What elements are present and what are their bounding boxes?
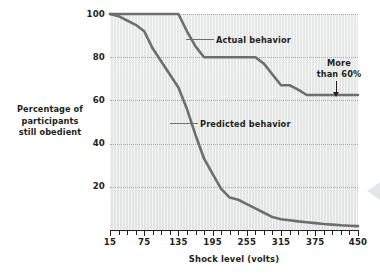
x-tick-label-135: 135 [163, 237, 193, 247]
x-tick-45 [127, 231, 128, 235]
x-tick-420 [341, 231, 342, 235]
obedience-line-chart: Percentage of participants still obedien… [0, 0, 380, 278]
x-tick-285 [264, 231, 265, 235]
y-tick-label-20: 20 [79, 181, 105, 191]
leader-line-predicted [170, 123, 198, 124]
x-tick-270 [255, 231, 256, 235]
left-triangle-icon[interactable] [367, 182, 380, 200]
x-tick-label-75: 75 [129, 237, 159, 247]
x-tick-165 [196, 231, 197, 235]
x-tick-300 [272, 231, 273, 235]
x-tick-375 [315, 231, 316, 236]
x-tick-90 [153, 231, 154, 235]
x-tick-label-375: 375 [300, 237, 330, 247]
x-tick-435 [349, 231, 350, 235]
x-axis-line [110, 230, 359, 231]
x-tick-label-15: 15 [95, 237, 125, 247]
x-tick-240 [238, 231, 239, 235]
y-tick-label-60: 60 [79, 95, 105, 105]
y-tick-label-100: 100 [79, 9, 105, 19]
x-tick-label-255: 255 [232, 237, 262, 247]
x-tick-330 [290, 231, 291, 235]
x-tick-30 [119, 231, 120, 235]
x-tick-195 [213, 231, 214, 236]
x-tick-315 [281, 231, 282, 236]
x-tick-255 [247, 231, 248, 236]
x-tick-405 [332, 231, 333, 235]
x-tick-225 [230, 231, 231, 235]
annotation-more-than-60: More than 60% [308, 58, 370, 80]
x-tick-150 [187, 231, 188, 235]
annotation-actual-behavior: Actual behavior [216, 35, 291, 45]
x-tick-120 [170, 231, 171, 235]
y-axis-title: Percentage of participants still obedien… [2, 104, 98, 139]
x-tick-360 [307, 231, 308, 235]
x-tick-180 [204, 231, 205, 235]
annotation-predicted-behavior: Predicted behavior [200, 119, 291, 129]
x-tick-75 [144, 231, 145, 236]
x-tick-210 [221, 231, 222, 235]
x-tick-390 [324, 231, 325, 235]
x-tick-15 [110, 231, 111, 236]
down-arrow-icon [336, 81, 337, 94]
x-tick-label-195: 195 [198, 237, 228, 247]
x-tick-60 [136, 231, 137, 235]
x-tick-105 [161, 231, 162, 235]
leader-line-actual [186, 39, 214, 40]
x-tick-450 [358, 231, 359, 236]
x-tick-345 [298, 231, 299, 235]
y-tick-label-40: 40 [79, 138, 105, 148]
x-axis-title: Shock level (volts) [110, 254, 358, 264]
x-tick-135 [178, 231, 179, 236]
series-line-actual [110, 14, 358, 95]
x-tick-label-450: 450 [343, 237, 373, 247]
x-tick-label-315: 315 [266, 237, 296, 247]
y-tick-label-80: 80 [79, 52, 105, 62]
